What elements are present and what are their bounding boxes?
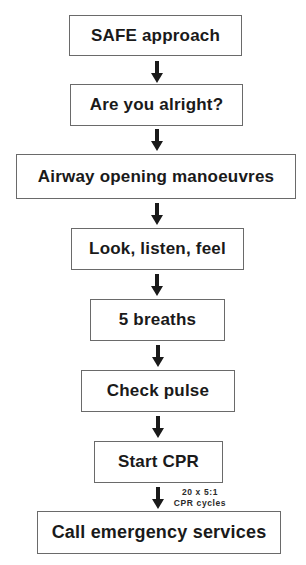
- step-look-listen-feel: Look, listen, feel: [71, 228, 244, 270]
- step-call-emergency-services: Call emergency services: [37, 511, 281, 554]
- arrow-down-icon: [151, 274, 163, 296]
- step-label: Airway opening manoeuvres: [38, 167, 274, 187]
- step-label: 5 breaths: [119, 310, 196, 330]
- step-label: Call emergency services: [52, 522, 267, 543]
- step-label: Look, listen, feel: [89, 239, 226, 259]
- cpr-cycles-annotation: 20 x 5:1 CPR cycles: [168, 487, 232, 509]
- arrow-down-icon: [151, 203, 163, 225]
- step-label: Start CPR: [118, 452, 199, 472]
- step-safe-approach: SAFE approach: [69, 15, 242, 56]
- arrow-down-icon: [152, 487, 164, 509]
- step-label: Are you alright?: [90, 95, 224, 115]
- step-are-you-alright: Are you alright?: [70, 84, 243, 126]
- annotation-line-1: 20 x 5:1: [168, 487, 232, 498]
- step-airway-opening: Airway opening manoeuvres: [16, 154, 296, 199]
- arrow-down-icon: [151, 61, 163, 83]
- step-5-breaths: 5 breaths: [90, 299, 225, 341]
- annotation-line-2: CPR cycles: [168, 498, 232, 509]
- step-check-pulse: Check pulse: [81, 370, 235, 412]
- step-label: Check pulse: [107, 381, 209, 401]
- step-label: SAFE approach: [91, 26, 220, 46]
- arrow-down-icon: [152, 345, 164, 367]
- step-start-cpr: Start CPR: [94, 441, 223, 483]
- arrow-down-icon: [152, 416, 164, 438]
- arrow-down-icon: [151, 129, 163, 151]
